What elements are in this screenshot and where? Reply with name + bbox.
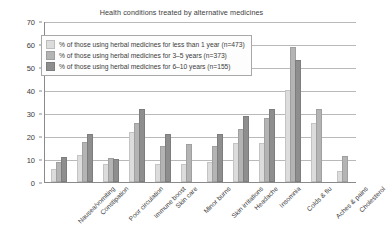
- bar: [342, 156, 349, 182]
- y-tick-label: 0: [31, 179, 35, 188]
- y-tick-label: 40: [27, 87, 35, 96]
- y-tick-label: 20: [27, 133, 35, 142]
- x-axis-labels: Nausea/vomitingConstipationPoor circulat…: [44, 183, 356, 245]
- legend-label: % of those using herbal medicines for 6–…: [59, 62, 231, 71]
- y-tick-mark: [39, 91, 42, 92]
- bar-group: [305, 22, 331, 182]
- bar: [316, 109, 323, 182]
- x-axis-label: Insomnia: [278, 185, 302, 209]
- legend-swatch-icon: [46, 51, 55, 60]
- x-axis-label: Colds & flu: [305, 185, 332, 212]
- y-tick-mark: [39, 183, 42, 184]
- legend-swatch-icon: [46, 62, 55, 71]
- y-tick-label: 10: [27, 156, 35, 165]
- y-tick-mark: [39, 22, 42, 23]
- y-tick-mark: [39, 114, 42, 115]
- legend-item: % of those using herbal medicines for 6–…: [46, 61, 245, 72]
- bar: [165, 134, 172, 182]
- y-tick-mark: [39, 160, 42, 161]
- y-tick-label: 70: [27, 18, 35, 27]
- bar-group: [331, 22, 357, 182]
- y-tick-label: 50: [27, 64, 35, 73]
- legend-swatch-icon: [46, 40, 55, 49]
- x-axis-label: Minor burns: [202, 185, 232, 215]
- chart-title: Health conditions treated by alternative…: [0, 8, 363, 17]
- bar: [243, 116, 250, 182]
- bar: [269, 109, 276, 182]
- legend-label: % of those using herbal medicines for le…: [59, 40, 245, 49]
- chart-legend: % of those using herbal medicines for le…: [41, 35, 252, 76]
- legend-label: % of those using herbal medicines for 3–…: [59, 51, 227, 60]
- legend-item: % of those using herbal medicines for le…: [46, 39, 245, 50]
- bar-group: [253, 22, 279, 182]
- bar: [139, 109, 146, 182]
- y-tick-label: 60: [27, 41, 35, 50]
- bar: [217, 134, 224, 182]
- bar: [295, 60, 302, 182]
- bar: [113, 159, 120, 182]
- bar: [87, 134, 94, 182]
- y-tick-label: 30: [27, 110, 35, 119]
- bar-group: [279, 22, 305, 182]
- legend-item: % of those using herbal medicines for 3–…: [46, 50, 245, 61]
- bar: [186, 144, 193, 182]
- y-tick-mark: [39, 137, 42, 138]
- y-axis: 010203040506070: [0, 22, 42, 183]
- bar: [61, 157, 68, 182]
